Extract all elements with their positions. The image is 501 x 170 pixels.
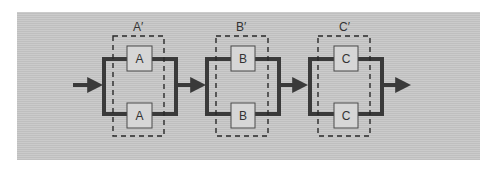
stage-a: A′ A A — [104, 20, 176, 136]
stage-c: C′ C C — [310, 20, 382, 136]
component-a-bottom-label: A — [135, 109, 143, 123]
component-c-bottom-label: C — [342, 109, 351, 123]
component-b-bottom-label: B — [239, 109, 247, 123]
component-b-top-label: B — [239, 52, 247, 66]
reliability-diagram: A′ A A B′ B B C′ C C — [0, 0, 501, 170]
stage-b-group-label: B′ — [236, 20, 247, 34]
stage-a-group-label: A′ — [133, 20, 144, 34]
component-c-top-label: C — [342, 52, 351, 66]
stage-b: B′ B B — [207, 20, 279, 136]
component-a-top-label: A — [135, 52, 143, 66]
stage-c-group-label: C′ — [339, 20, 351, 34]
